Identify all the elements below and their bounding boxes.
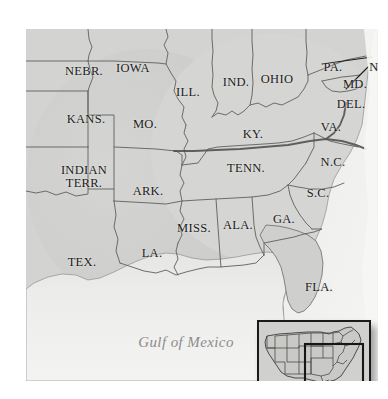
water-label-gulf-of-mexico: Gulf of Mexico <box>138 334 234 351</box>
inset-artwork <box>259 322 369 381</box>
map-plate: NEBR. IOWA ILL. IND. OHIO PA. N.J. MD. D… <box>26 29 378 381</box>
historical-map-figure: NEBR. IOWA ILL. IND. OHIO PA. N.J. MD. D… <box>0 0 388 399</box>
united-states-locator-inset <box>257 320 371 381</box>
